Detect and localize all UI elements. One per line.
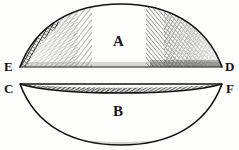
region-label-a: A bbox=[113, 34, 124, 49]
region-label-b: B bbox=[113, 104, 123, 119]
figure-drawing-canvas bbox=[0, 0, 239, 150]
upper-right-hatching bbox=[146, 5, 222, 67]
vertex-label-f: F bbox=[226, 82, 234, 95]
vertex-label-c: C bbox=[4, 82, 13, 95]
vertex-label-e: E bbox=[4, 60, 13, 73]
engraving-figure: E D C F A B bbox=[0, 0, 239, 150]
vertex-label-d: D bbox=[225, 60, 234, 73]
upper-left-hatching bbox=[20, 5, 92, 67]
